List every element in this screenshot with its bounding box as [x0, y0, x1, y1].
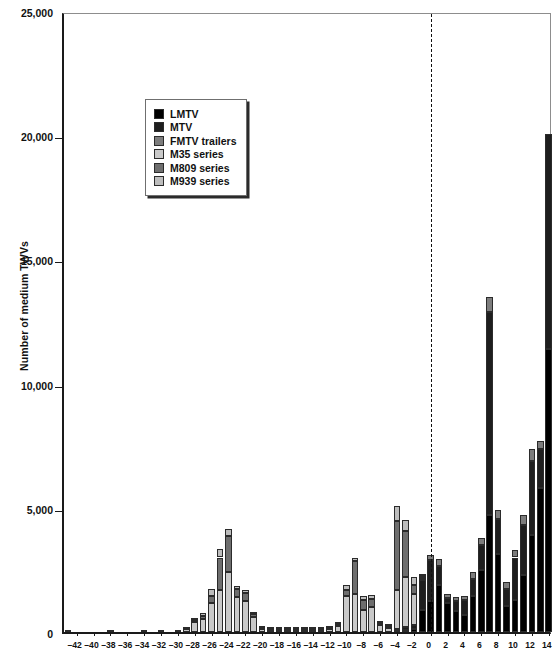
zero-reference-line [431, 14, 432, 632]
bar-segment [217, 549, 224, 557]
bar-segment [478, 545, 485, 570]
bar-segment [360, 596, 367, 600]
bar-column [537, 441, 544, 632]
bar-column [377, 622, 384, 632]
x-axis-tick [330, 632, 331, 636]
bar-segment [335, 622, 342, 624]
x-axis-tick [448, 632, 449, 636]
bar-segment [453, 611, 460, 632]
bar-segment [495, 519, 502, 554]
y-axis-tick-label: 10,000 [0, 380, 53, 392]
bar-segment [394, 590, 401, 630]
bar-segment [360, 600, 367, 610]
bar-segment [191, 622, 198, 632]
legend-item: M809 series [154, 162, 237, 174]
x-axis-tick [481, 632, 482, 636]
bar-segment [486, 312, 493, 516]
legend-item-label: FMTV trailers [170, 135, 237, 147]
x-axis-tick [397, 632, 398, 636]
bar-segment [65, 630, 72, 632]
bar-segment [394, 506, 401, 521]
bar-column [183, 628, 190, 632]
bar-segment [200, 616, 207, 619]
x-axis-tick-label: –6 [373, 640, 383, 650]
bar-column [217, 549, 224, 632]
bar-segment [545, 134, 552, 349]
bar-segment [495, 554, 502, 632]
bar-column [368, 595, 375, 632]
x-axis-tick [212, 632, 213, 636]
legend-item: FMTV trailers [154, 135, 237, 147]
x-axis-tick [549, 632, 550, 636]
bar-segment [478, 570, 485, 632]
bar-segment [217, 558, 224, 590]
bar-column [478, 538, 485, 632]
bar-column [453, 597, 460, 632]
x-axis-tick [346, 632, 347, 636]
bar-segment [234, 589, 241, 597]
bar-segment [461, 600, 468, 615]
x-axis-tick [94, 632, 95, 636]
bar-segment [503, 589, 510, 606]
bar-segment [470, 596, 477, 632]
bar-column [65, 631, 72, 632]
x-axis-tick-label: –4 [390, 640, 400, 650]
bar-column [250, 612, 257, 632]
bar-segment [259, 626, 266, 628]
bar-column [394, 506, 401, 632]
x-axis-tick-label: –20 [253, 640, 267, 650]
y-axis-tick-label: 0 [0, 628, 53, 640]
bar-segment [402, 520, 409, 531]
legend-item-label: MTV [170, 121, 192, 133]
legend-swatch-icon [154, 136, 164, 146]
bar-column [191, 618, 198, 632]
x-axis-tick [178, 632, 179, 636]
bar-segment [377, 625, 384, 632]
bar-column [234, 586, 241, 632]
bar-segment [385, 628, 392, 632]
bar-segment [402, 627, 409, 630]
bar-segment [520, 525, 527, 575]
bar-column [267, 629, 274, 632]
bar-segment [242, 590, 249, 593]
bar-segment [234, 586, 241, 589]
bar-segment [436, 566, 443, 585]
bar-column [208, 589, 215, 632]
bar-segment [343, 596, 350, 632]
bar-segment [377, 621, 384, 623]
bar-segment [309, 627, 316, 629]
bar-segment [318, 627, 325, 629]
bar-segment [242, 601, 249, 632]
y-axis-tick [55, 262, 64, 263]
x-axis-tick [195, 632, 196, 636]
x-axis-tick-label: –40 [84, 640, 98, 650]
x-axis-tick [110, 632, 111, 636]
x-axis-tick-label: –22 [236, 640, 250, 650]
x-axis-tick-label: –14 [304, 640, 318, 650]
x-axis-tick-label: –36 [118, 640, 132, 650]
x-axis-tick-label: –32 [152, 640, 166, 650]
bar-segment [470, 572, 477, 578]
bar-column [486, 297, 493, 632]
bar-column [503, 582, 510, 632]
bar-column [411, 577, 418, 632]
bar-column [242, 590, 249, 632]
bar-segment [343, 585, 350, 589]
bar-segment [529, 535, 536, 632]
bar-column [335, 623, 342, 632]
bar-column [343, 585, 350, 632]
chart-root: Number of medium TWVs 05,00010,00015,000… [0, 0, 560, 664]
bar-segment [419, 580, 426, 610]
x-axis-tick-label: –42 [67, 640, 81, 650]
y-axis-tick [55, 511, 64, 512]
bar-segment [242, 593, 249, 601]
bar-column [529, 449, 536, 632]
bar-segment [250, 617, 257, 632]
chart-legend: LMTVMTVFMTV trailersM35 seriesM809 serie… [145, 99, 247, 196]
bar-segment [444, 598, 451, 603]
bar-segment [250, 612, 257, 614]
x-axis-tick-label: –2 [407, 640, 417, 650]
bar-segment [486, 297, 493, 312]
legend-swatch-icon [154, 163, 164, 173]
bar-segment [284, 627, 291, 629]
